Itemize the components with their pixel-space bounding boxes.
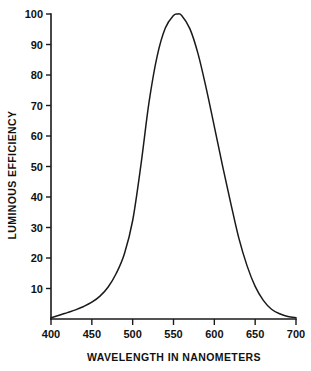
y-axis-title: LUMINOUS EFFICIENCY <box>6 111 18 240</box>
y-tick-label: 80 <box>31 69 43 81</box>
x-tick-label: 650 <box>246 328 264 340</box>
luminous-efficiency-curve <box>51 14 296 318</box>
x-tick-label: 550 <box>164 328 182 340</box>
x-axis-title: WAVELENGTH IN NANOMETERS <box>87 351 261 363</box>
x-tick-label: 600 <box>205 328 223 340</box>
y-tick-label: 50 <box>31 161 43 173</box>
y-tick-label: 60 <box>31 130 43 142</box>
y-tick-label: 40 <box>31 191 43 203</box>
x-axis-tick-labels: 400450500550600650700 <box>42 328 305 340</box>
chart-figure: 102030405060708090100 400450500550600650… <box>0 0 311 371</box>
y-tick-label: 10 <box>31 283 43 295</box>
x-tick-label: 700 <box>287 328 305 340</box>
axis-lines <box>51 14 296 319</box>
x-tick-label: 400 <box>42 328 60 340</box>
luminous-efficiency-chart: 102030405060708090100 400450500550600650… <box>0 0 311 371</box>
x-tick-label: 450 <box>83 328 101 340</box>
y-tick-label: 20 <box>31 252 43 264</box>
y-tick-label: 70 <box>31 100 43 112</box>
y-axis-tick-labels: 102030405060708090100 <box>25 8 43 295</box>
y-tick-label: 90 <box>31 39 43 51</box>
y-tick-label: 30 <box>31 222 43 234</box>
x-axis-ticks <box>51 319 296 325</box>
y-tick-label: 100 <box>25 8 43 20</box>
x-tick-label: 500 <box>123 328 141 340</box>
